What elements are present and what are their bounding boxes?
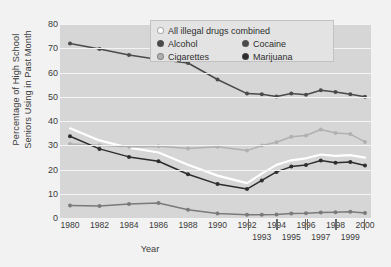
legend-item: Alcohol — [157, 39, 242, 49]
series-point — [304, 211, 308, 215]
series-point — [319, 88, 323, 92]
legend-marker-icon — [242, 40, 249, 47]
x-axis-tick-label: 1997 — [311, 233, 330, 242]
series-point — [319, 128, 323, 132]
series-point — [348, 210, 352, 214]
series-point — [245, 213, 249, 217]
legend-label: Alcohol — [168, 39, 198, 49]
chart-figure: Percentage of High School Seniors Using … — [0, 0, 391, 267]
series-point — [68, 41, 72, 45]
y-axis-tick-label: 30 — [32, 141, 58, 150]
series-point — [127, 155, 131, 159]
x-axis-tick-label: 1988 — [178, 221, 197, 230]
series-point — [260, 213, 264, 217]
legend-item: Cigarettes — [157, 52, 242, 62]
series-point — [127, 202, 131, 206]
series-point — [157, 159, 161, 163]
y-axis-tick-label: 70 — [32, 44, 58, 53]
y-axis-tick-labels: 01020304050607080 — [28, 24, 58, 218]
series-point — [348, 92, 352, 96]
series-point — [260, 92, 264, 96]
series-point — [245, 92, 249, 96]
gridline — [60, 194, 371, 195]
y-axis-tick-label: 10 — [32, 190, 58, 199]
series-point — [127, 53, 131, 57]
series-point — [260, 178, 264, 182]
series-point — [334, 161, 338, 165]
x-axis-title: Year — [60, 244, 240, 254]
x-axis-tick-label: 1980 — [60, 221, 79, 230]
series-point — [304, 163, 308, 167]
y-axis-tick-label: 20 — [32, 166, 58, 175]
y-axis-tick-label: 50 — [32, 93, 58, 102]
series-point — [319, 159, 323, 163]
legend-label: Marijuana — [253, 52, 293, 62]
y-axis-title-line-1: Percentage of High School — [11, 0, 23, 185]
legend-item: Cocaine — [242, 39, 327, 49]
legend-item: All illegal drugs combined — [157, 26, 327, 36]
x-axis-separator — [336, 219, 337, 230]
series-point — [319, 210, 323, 214]
legend-marker-icon — [157, 53, 164, 60]
chart-legend: All illegal drugs combinedAlcoholCocaine… — [150, 20, 334, 62]
x-axis-separator — [307, 219, 308, 230]
series-point — [245, 187, 249, 191]
legend-label: Cocaine — [253, 39, 286, 49]
series-point — [348, 160, 352, 164]
legend-row: All illegal drugs combined — [157, 24, 327, 37]
series-point — [289, 212, 293, 216]
series-point — [98, 204, 102, 208]
x-axis-tick-label: 1993 — [252, 233, 271, 242]
series-point — [245, 149, 249, 153]
series-point — [186, 146, 190, 150]
y-axis-tick-label: 80 — [32, 20, 58, 29]
y-axis-tick-label: 40 — [32, 117, 58, 126]
series-point — [363, 164, 367, 168]
series-point — [363, 211, 367, 215]
series-point — [304, 134, 308, 138]
x-axis-tick-label: 1999 — [341, 233, 360, 242]
x-axis-tick-label: 1990 — [208, 221, 227, 230]
series-point — [363, 140, 367, 144]
series-point — [98, 147, 102, 151]
legend-marker-icon — [242, 53, 249, 60]
legend-item: Marijuana — [242, 52, 327, 62]
series-point — [348, 132, 352, 136]
series-point — [68, 203, 72, 207]
gridline — [60, 145, 371, 146]
x-axis-separator — [277, 219, 278, 230]
x-axis-tick-label: 1984 — [119, 221, 138, 230]
series-point — [334, 210, 338, 214]
gridline — [60, 97, 371, 98]
series-point — [216, 78, 220, 82]
legend-label: All illegal drugs combined — [168, 26, 270, 36]
series-point — [289, 135, 293, 139]
series-point — [68, 134, 72, 138]
y-axis-tick-label: 60 — [32, 69, 58, 78]
legend-row: CigarettesMarijuana — [157, 50, 327, 63]
series-point — [275, 140, 279, 144]
x-axis-separator — [248, 219, 249, 230]
series-point — [289, 92, 293, 96]
series-point — [275, 212, 279, 216]
legend-label: Cigarettes — [168, 52, 209, 62]
x-axis-tick-label: 1995 — [282, 233, 301, 242]
series-point — [334, 131, 338, 135]
gridline — [60, 121, 371, 122]
series-point — [157, 201, 161, 205]
legend-marker-icon — [157, 27, 164, 34]
x-axis-tick-label: 1982 — [90, 221, 109, 230]
legend-row: AlcoholCocaine — [157, 37, 327, 50]
series-point — [216, 182, 220, 186]
series-line — [70, 128, 365, 183]
y-axis-tick-label: 0 — [32, 214, 58, 223]
gridline — [60, 73, 371, 74]
series-point — [334, 90, 338, 94]
gridline — [60, 170, 371, 171]
series-point — [289, 165, 293, 169]
series-point — [186, 208, 190, 212]
x-axis-tick-label: 1986 — [149, 221, 168, 230]
x-axis-separator — [364, 219, 365, 230]
legend-marker-icon — [157, 40, 164, 47]
series-point — [216, 211, 220, 215]
